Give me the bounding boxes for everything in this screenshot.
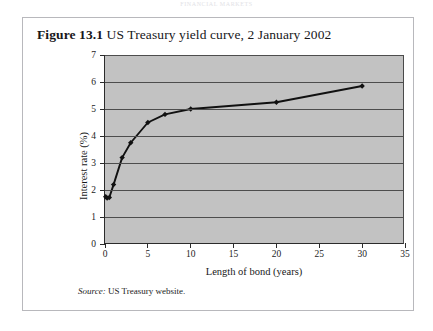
gridline-horizontal <box>105 109 403 110</box>
x-axis-tick-label: 10 <box>186 249 196 259</box>
y-axis-tick <box>100 82 105 83</box>
y-axis-tick <box>100 190 105 191</box>
y-axis-tick <box>100 109 105 110</box>
y-axis-tick-label: 6 <box>91 77 96 87</box>
series-line <box>106 86 362 198</box>
x-axis-tick <box>105 243 106 248</box>
x-axis-tick-label: 30 <box>357 249 367 259</box>
chart: Interest rate (%) 0123456705101520253035… <box>23 48 415 283</box>
x-axis-tick <box>190 243 191 248</box>
y-axis-tick <box>100 55 105 56</box>
x-axis-tick-label: 15 <box>229 249 239 259</box>
x-axis-tick-label: 20 <box>272 249 282 259</box>
source-note: Source: US Treasury website. <box>78 286 185 296</box>
plot-area: 0123456705101520253035 <box>104 55 404 244</box>
x-axis-tick <box>147 243 148 248</box>
x-axis-title: Length of bond (years) <box>104 266 404 277</box>
figure-box: Figure 13.1 US Treasury yield curve, 2 J… <box>22 17 414 311</box>
x-axis-tick <box>233 243 234 248</box>
data-point-marker <box>274 100 279 105</box>
gridline-horizontal <box>105 190 403 191</box>
x-axis-tick <box>362 243 363 248</box>
x-axis-tick-label: 5 <box>145 249 150 259</box>
figure-label: Figure 13.1 <box>37 27 103 42</box>
figure-caption-text: US Treasury yield curve, 2 January 2002 <box>107 27 332 42</box>
data-point-marker <box>359 83 364 88</box>
y-axis-tick <box>100 163 105 164</box>
y-axis-tick <box>100 217 105 218</box>
gridline-horizontal <box>105 82 403 83</box>
y-axis-tick-label: 7 <box>91 50 96 60</box>
x-axis-tick-label: 0 <box>103 249 108 259</box>
y-axis-tick <box>100 136 105 137</box>
data-point-marker <box>111 182 116 187</box>
page-running-head: FINANCIAL MARKETS <box>0 1 433 7</box>
y-axis-tick-label: 0 <box>91 239 96 249</box>
y-axis-tick-label: 2 <box>91 185 96 195</box>
x-axis-tick <box>405 243 406 248</box>
x-axis-tick <box>276 243 277 248</box>
y-axis-tick-label: 4 <box>91 131 96 141</box>
figure-caption: Figure 13.1 US Treasury yield curve, 2 J… <box>37 27 331 43</box>
source-text: US Treasury website. <box>108 286 185 296</box>
x-axis-tick <box>319 243 320 248</box>
gridline-horizontal <box>105 217 403 218</box>
y-axis-tick-label: 5 <box>91 104 96 114</box>
x-axis-tick-label: 25 <box>315 249 325 259</box>
gridline-horizontal <box>105 163 403 164</box>
x-axis-tick-label: 35 <box>400 249 410 259</box>
y-axis-title: Interest rate (%) <box>78 131 89 199</box>
y-axis-tick-label: 1 <box>91 212 96 222</box>
y-axis-tick-label: 3 <box>91 158 96 168</box>
gridline-horizontal <box>105 136 403 137</box>
gridline-horizontal <box>105 55 403 56</box>
plot-inner: 0123456705101520253035 <box>105 55 403 243</box>
source-label: Source: <box>78 286 106 296</box>
